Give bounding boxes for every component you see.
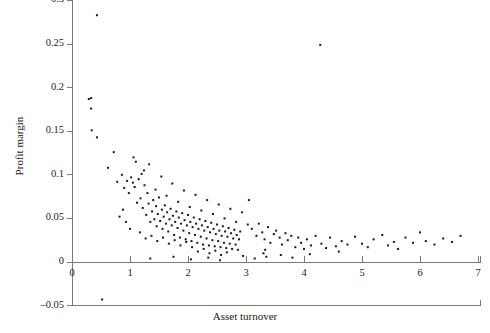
data-point [145,214,147,216]
data-point [88,98,90,100]
y-tick-label-6: 0.25 [14,37,64,48]
data-point [236,234,238,236]
data-point [174,221,176,223]
data-points-group [88,14,462,300]
data-point [287,239,289,241]
data-point [170,208,172,210]
data-point [91,129,93,131]
data-point [309,253,311,255]
data-point [171,183,173,185]
data-point [232,237,234,239]
data-point [354,236,356,238]
data-point [269,242,271,244]
data-point [255,235,257,237]
data-point [130,176,132,178]
data-point [214,245,216,247]
data-point [230,232,232,234]
x-axis-title: Asset turnover [0,310,490,322]
data-point [184,219,186,221]
data-point [338,251,340,253]
data-point [212,213,214,215]
data-point [217,240,219,242]
data-point [434,244,436,246]
data-point [179,237,181,239]
data-point [207,257,209,259]
data-point [173,256,175,258]
data-point [139,231,141,233]
data-point [185,238,187,240]
data-point [168,218,170,220]
data-point [138,178,140,180]
data-point [189,221,191,223]
data-point [172,215,174,217]
data-point [190,258,192,260]
data-point [152,199,154,201]
data-point [219,259,221,261]
data-point [218,230,220,232]
data-point [237,249,239,251]
data-point [143,169,145,171]
data-point [206,237,208,239]
data-point [202,244,204,246]
data-point [158,196,160,198]
data-point [132,156,134,158]
data-point [156,225,158,227]
data-point [225,247,227,249]
data-point [166,195,168,197]
data-point [187,214,189,216]
data-point [235,244,237,246]
data-point [199,218,201,220]
data-point [442,237,444,239]
data-point [224,217,226,219]
data-point [101,299,103,301]
data-point [405,237,407,239]
data-point [235,221,237,223]
data-point [186,224,188,226]
data-point [251,228,253,230]
data-point [373,238,375,240]
data-point [216,224,218,226]
data-point [149,258,151,260]
data-point [144,184,146,186]
data-point [233,229,235,231]
data-point [209,231,211,233]
data-point [155,189,157,191]
data-point [239,230,241,232]
data-point [191,246,193,248]
data-point [173,234,175,236]
data-point [294,246,296,248]
x-tick-label-7: 7 [458,267,490,278]
data-point [219,246,221,248]
data-point [90,108,92,110]
data-point [238,238,240,240]
data-point [213,228,215,230]
data-point [162,237,164,239]
data-point [146,192,148,194]
data-point [175,210,177,212]
data-point [264,249,266,251]
data-point [183,190,185,192]
data-point [134,186,136,188]
data-point [96,14,98,16]
data-point [303,248,305,250]
data-point [188,232,190,234]
data-point [361,243,363,245]
data-point [125,221,127,223]
x-tick-label-5: 5 [342,267,382,278]
data-point [229,243,231,245]
data-point [280,254,282,256]
data-point [261,231,263,233]
data-point [135,161,137,163]
data-point [96,136,98,138]
data-point [181,212,183,214]
data-point [203,248,205,250]
data-point [315,235,317,237]
data-point [218,203,220,205]
data-point [145,237,147,239]
data-point [165,223,167,225]
data-point [155,205,157,207]
data-point [206,199,208,201]
data-point [208,244,210,246]
data-point [254,258,256,260]
x-tick-label-0: 0 [52,267,92,278]
